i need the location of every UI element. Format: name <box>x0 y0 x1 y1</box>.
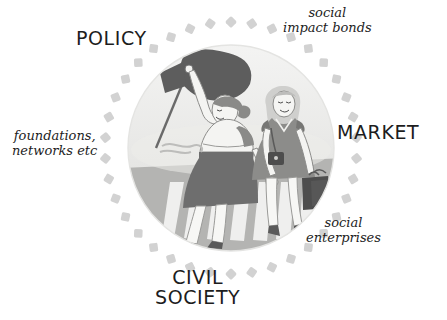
sector-label-civil-society: CIVIL SOCIETY <box>155 268 240 308</box>
sector-label-policy: POLICY <box>76 29 147 49</box>
illustration-canvas: POLICY MARKET CIVIL SOCIETY social impac… <box>0 0 447 320</box>
annotation-social-impact-bonds: social impact bonds <box>283 5 372 36</box>
annotation-foundations-networks: foundations, networks etc <box>12 128 97 159</box>
annotation-social-enterprises: social enterprises <box>306 215 381 246</box>
sector-label-market: MARKET <box>337 123 419 143</box>
